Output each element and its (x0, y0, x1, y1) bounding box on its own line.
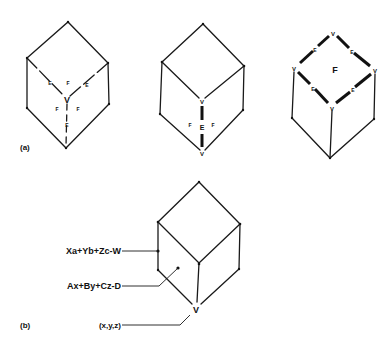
edge-equation-label: Xa+Yb+Zc-W (66, 246, 122, 256)
vertex-coordinates-label: (x,y,z) (99, 321, 121, 330)
face-label: F (55, 106, 58, 112)
edge-label: E (200, 124, 205, 131)
edge-label: E (313, 47, 317, 53)
vertex-label: V (292, 66, 296, 72)
face-label: F (211, 122, 214, 128)
edge-label: E (311, 86, 315, 92)
edge-label: E (65, 122, 69, 128)
face-label: F (76, 106, 79, 112)
edge-label: E (351, 87, 355, 93)
vertex-label: V (373, 68, 377, 74)
cube-edge-highlight: V V E F F (159, 23, 246, 157)
edge-label: E (48, 80, 52, 86)
face-equation-label: Ax+By+Cz-D (67, 281, 122, 291)
cube-face-highlight: V V V V F E E E E (291, 31, 377, 159)
face-label: F (66, 80, 69, 86)
face-label: F (188, 122, 191, 128)
leader-face (122, 268, 178, 286)
vertex-label: V (200, 151, 204, 157)
part-a-label: (a) (20, 143, 30, 152)
cube-annotated: V (156, 181, 241, 315)
vertex-label: V (331, 31, 335, 37)
vertex-label: V (200, 99, 204, 105)
vertex-label: V (64, 95, 70, 105)
vertex-label: V (330, 106, 334, 112)
edge-label: E (85, 82, 89, 88)
part-b-label: (b) (20, 321, 31, 330)
face-label: F (332, 65, 338, 75)
polyhedron-duality-diagram: V E E E F F F (a) V V E F F (0, 0, 391, 341)
cube-vertex-highlight: V E E E F F F (26, 21, 110, 149)
vertex-label: V (193, 305, 199, 315)
leader-vertex (122, 315, 190, 325)
